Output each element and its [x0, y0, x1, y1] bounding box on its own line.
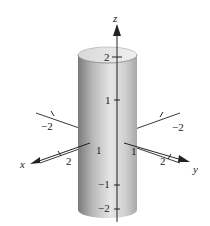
x-tick-1: 1 [96, 144, 102, 156]
z-axis-label: z [112, 12, 118, 24]
y-tick-neg2: −2 [172, 121, 184, 133]
z-tick-1: 1 [105, 94, 111, 106]
cylinder-figure: z x y 2 1 −1 −2 −2 1 2 −2 1 2 [0, 0, 210, 226]
x-tick-2: 2 [66, 155, 72, 167]
x-axis-label: x [19, 158, 25, 170]
z-tick-neg2: −2 [98, 202, 110, 214]
z-tick-2: 2 [104, 51, 110, 63]
cylinder-surface [78, 47, 137, 218]
plot-canvas: z x y 2 1 −1 −2 −2 1 2 −2 1 2 [0, 0, 210, 226]
y-tick-2: 2 [160, 155, 166, 167]
z-tick-neg1: −1 [98, 178, 110, 190]
y-tick-1: 1 [131, 145, 137, 157]
y-axis-label: y [192, 163, 198, 175]
x-tick-neg2: −2 [41, 120, 53, 132]
